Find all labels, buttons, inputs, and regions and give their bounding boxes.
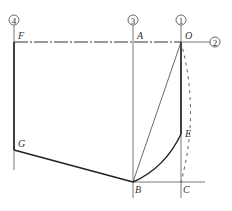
curve-eb — [133, 134, 181, 182]
svg-text:1: 1 — [179, 16, 184, 26]
edge-gb — [14, 150, 133, 182]
label-e: E — [184, 128, 191, 139]
label-b: B — [135, 184, 141, 195]
axis-marker-1: 1 — [176, 15, 186, 26]
label-o: O — [185, 30, 192, 41]
label-f: F — [17, 30, 25, 41]
svg-text:2: 2 — [213, 38, 218, 48]
label-a: A — [136, 30, 144, 41]
dashed-arc — [181, 42, 191, 182]
axis-marker-4: 4 — [9, 15, 19, 26]
axis-marker-3: 3 — [128, 15, 138, 26]
svg-text:3: 3 — [131, 16, 136, 26]
svg-text:4: 4 — [12, 16, 17, 26]
axis-marker-2: 2 — [210, 37, 220, 48]
diagram-canvas: 4 3 1 2 F A O G E B C — [0, 0, 232, 211]
diagonal-ob — [133, 42, 181, 182]
label-g: G — [18, 138, 25, 149]
label-c: C — [183, 184, 190, 195]
